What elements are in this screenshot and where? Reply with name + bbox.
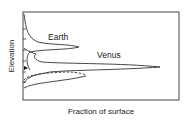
earth-curve <box>24 14 79 70</box>
chart: Earth Venus Fraction of surface Elevatio… <box>0 0 193 120</box>
y-axis-label: Elevation <box>7 40 16 73</box>
x-axis-label: Fraction of surface <box>68 107 135 116</box>
earth-curve-lower <box>24 76 86 88</box>
venus-label: Venus <box>97 50 121 60</box>
earth-label: Earth <box>48 32 69 42</box>
sea-level-marker-icon <box>24 66 28 70</box>
venus-curve <box>24 48 160 83</box>
